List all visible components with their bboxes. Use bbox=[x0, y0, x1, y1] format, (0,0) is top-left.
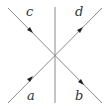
diagram-lines bbox=[0, 0, 108, 109]
label-b: b bbox=[75, 89, 83, 102]
crossing-lines-diagram: c d a b bbox=[0, 0, 108, 109]
label-a: a bbox=[27, 89, 35, 102]
label-d: d bbox=[75, 5, 83, 18]
label-c: c bbox=[26, 5, 33, 18]
